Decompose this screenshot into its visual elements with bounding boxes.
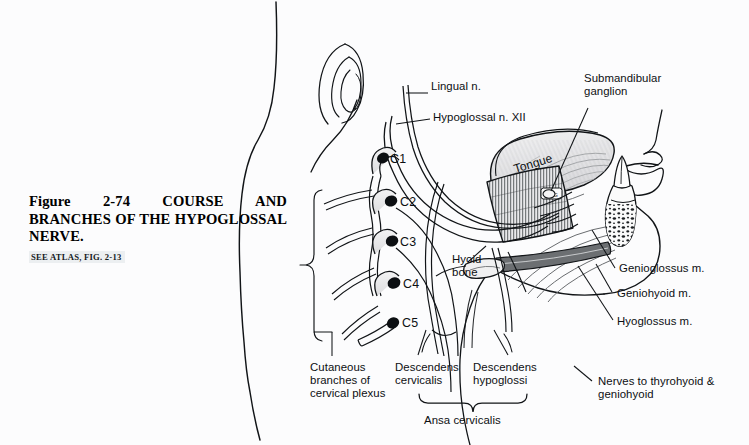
caption-title: Figure 2-74 COURSE AND BRANCHES OF THE H… [29,193,287,246]
label-cutaneous-line3: cervical plexus [310,387,385,400]
geniohyoid-muscle [495,242,610,272]
label-geniohyoid: Geniohyoid m. [617,287,691,300]
brace-cutaneous [300,190,332,341]
leader-nerves-thyrohyoid [574,366,592,381]
label-c5: C5 [402,317,418,330]
label-c2: C2 [400,196,416,209]
mandible-symphysis [604,156,640,250]
label-nerves-thyrohyoid-line1: Nerves to thyrohyoid & [598,375,714,388]
nerve-network [324,85,578,392]
cutaneous-branches [324,190,380,340]
label-submandibular-ganglion-line2: ganglion [584,85,627,98]
label-cutaneous-line1: Cutaneous [310,361,366,374]
label-genioglossus: Genioglossus m. [619,262,705,275]
label-descendens-cervicalis-line2: cervicalis [395,374,442,387]
label-hyoglossus: Hyoglossus m. [617,315,692,328]
c2-root [373,189,399,214]
label-hypoglossal-nerve: Hypoglossal n. XII [433,111,526,124]
label-hyoid-bone-line1: Hyoid [452,253,481,266]
submandibular-ganglion [543,190,555,198]
c5-root [358,315,401,346]
brace-ansa-cervicalis [419,394,527,412]
caption-atlas-reference: SEE ATLAS, FIG. 2-13 [29,251,125,263]
label-ansa-cervicalis: Ansa cervicalis [424,414,501,427]
figure-page: GHG [0,0,749,445]
label-hyoid-bone-line2: bone [452,266,478,279]
figure-caption: Figure 2-74 COURSE AND BRANCHES OF THE H… [29,193,287,264]
label-nerves-thyrohyoid-line2: geniohyoid [598,388,654,401]
label-c4: C4 [403,278,419,291]
label-submandibular-ganglion-line1: Submandibular [584,72,661,85]
leader-geniohyoid [596,264,612,292]
c4-root [375,271,403,296]
label-descendens-hypoglossi-line1: Descendens [473,361,537,374]
label-c3: C3 [400,236,416,249]
c3-root [373,229,400,254]
label-descendens-hypoglossi-line2: hypoglossi [473,374,527,387]
label-c1: C1 [390,153,406,166]
label-cutaneous-line2: branches of [310,374,370,387]
label-lingual-nerve: Lingual n. [431,80,481,93]
label-descendens-cervicalis-line1: Descendens [395,361,459,374]
leader-descendens-hypoglossi [494,330,508,355]
